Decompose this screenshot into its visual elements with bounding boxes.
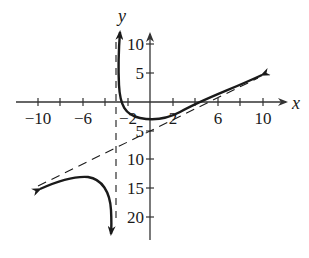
x-axis-label: x [291, 93, 300, 113]
y-tick-label-neg5: 5 [136, 122, 145, 141]
y-tick-label-neg15: 15 [127, 179, 144, 198]
y-axis-label: y [116, 6, 126, 26]
lower-branch-curve [40, 177, 111, 234]
x-tick-label-neg6: −6 [74, 109, 92, 128]
x-tick-label-6: 6 [214, 109, 223, 128]
x-axis: −10 −6 −2 2 6 10 x [16, 93, 300, 128]
y-tick-label-neg10: 10 [127, 150, 144, 169]
x-tick-label-neg10: −10 [25, 109, 52, 128]
y-tick-label-10: 10 [127, 35, 144, 54]
y-tick-label-5: 5 [136, 64, 145, 83]
y-tick-label-neg20: 20 [127, 208, 144, 227]
x-tick-label-10: 10 [255, 109, 272, 128]
graph: −10 −6 −2 2 6 10 x 10 5 5 10 15 20 y [0, 0, 309, 258]
slant-asymptote [38, 78, 258, 186]
